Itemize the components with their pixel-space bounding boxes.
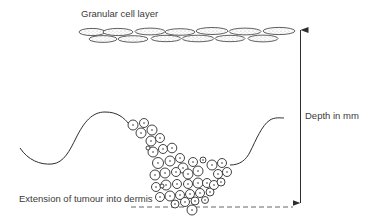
cell-nucleus [184,201,186,203]
cell-nucleus [179,194,181,196]
cell-nucleus [171,147,173,149]
cell-nucleus [211,164,213,166]
cell-nucleus [154,174,156,176]
tumour-cell [146,146,150,150]
cell-nucleus [189,193,191,195]
cell-nucleus [206,182,208,184]
cell-nucleus [221,162,223,164]
cell-nucleus [192,161,194,163]
cell-nucleus [187,173,189,175]
cell-nucleus [220,181,222,183]
cell-nucleus [165,184,167,186]
cell-nucleus [159,137,161,139]
cell-nucleus [179,157,181,159]
cell-nucleus [209,191,211,193]
cell-nucleus [155,186,157,188]
epidermal-line-right [230,118,284,165]
cell-nucleus [159,196,161,198]
cell-nucleus [152,151,154,153]
cell-nucleus [187,183,189,185]
cell-nucleus [197,170,199,172]
cell-nucleus [174,203,176,205]
cell-nucleus [217,173,219,175]
cell-nucleus [191,209,193,211]
cell-nucleus [169,160,171,162]
cell-nucleus [204,199,206,201]
cell-nucleus [143,122,145,124]
cell-nucleus [132,124,134,126]
cell-nucleus [169,195,171,197]
cell-nucleus [162,148,164,150]
cell-nucleus [182,167,184,169]
cell-nucleus [197,182,199,184]
cell-nucleus [150,140,152,142]
tumour-cell-cluster [128,119,232,216]
tumour-cell [160,184,164,188]
cell-nucleus [176,183,178,185]
melanoma-depth-diagram [0,0,385,218]
cell-nucleus [194,200,196,202]
cell-nucleus [140,132,142,134]
cell-nucleus [226,171,228,173]
granular-cell-layer [79,27,295,42]
cell-nucleus [164,172,166,174]
cell-nucleus [175,171,177,173]
cell-nucleus [202,159,204,161]
cell-nucleus [151,129,153,131]
cell-nucleus [199,192,201,194]
cell-nucleus [157,162,159,164]
epidermal-line-left [20,112,129,164]
cell-nucleus [213,184,215,186]
